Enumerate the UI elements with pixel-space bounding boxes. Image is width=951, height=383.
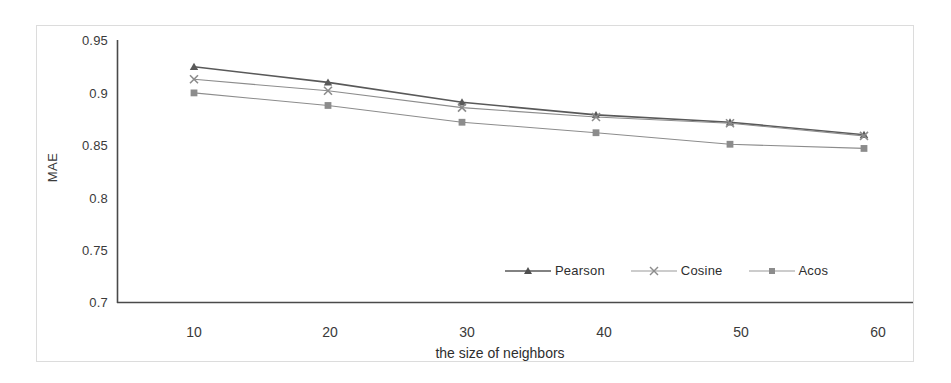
series-cosine bbox=[190, 75, 868, 140]
chart-legend: Pearson Cosine Acos bbox=[505, 263, 828, 278]
legend-item-acos: Acos bbox=[749, 263, 829, 278]
legend-label-acos: Acos bbox=[799, 263, 829, 278]
legend-item-pearson: Pearson bbox=[505, 263, 605, 278]
chart-figure: 0.95 0.9 0.85 0.8 0.75 0.7 10 20 30 40 5… bbox=[0, 0, 951, 383]
legend-label-pearson: Pearson bbox=[555, 263, 605, 278]
series-acos bbox=[191, 90, 868, 152]
x-marker-icon bbox=[631, 265, 677, 277]
legend-item-cosine: Cosine bbox=[631, 263, 723, 278]
legend-label-cosine: Cosine bbox=[681, 263, 723, 278]
triangle-marker-icon bbox=[505, 265, 551, 277]
square-marker-icon bbox=[749, 265, 795, 277]
plot-area bbox=[0, 0, 951, 383]
series-layer bbox=[190, 63, 868, 152]
